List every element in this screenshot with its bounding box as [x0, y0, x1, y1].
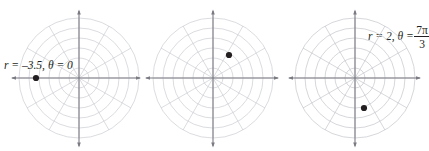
- point-label-1: r = –3.5, θ = 0: [4, 60, 73, 72]
- polar-coordinate-figure: r = –3.5, θ = 0: [0, 0, 429, 151]
- polar-grid-3: [286, 0, 429, 151]
- plotted-point-2: [226, 52, 232, 58]
- polar-grid-2: [143, 0, 286, 151]
- polar-grid-1: [0, 0, 143, 151]
- plotted-point-1: [33, 75, 39, 81]
- polar-panel-3: r = 3, θ =–π3: [286, 0, 429, 151]
- axes-1: [12, 11, 140, 146]
- polar-panel-2: r = 2, θ =7π3: [143, 0, 286, 151]
- polar-panel-1: r = –3.5, θ = 0: [0, 0, 143, 151]
- point-label-1-theta: θ = 0: [48, 59, 73, 71]
- plotted-point-3: [361, 105, 367, 111]
- point-label-1-r: r = –3.5,: [4, 59, 45, 71]
- axes-3: [289, 11, 420, 146]
- axes-2: [146, 11, 278, 146]
